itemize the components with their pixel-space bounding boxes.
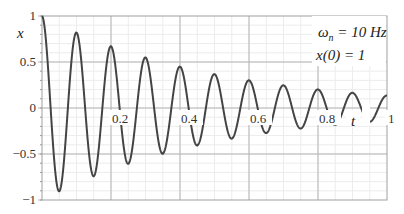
svg-text:0.8: 0.8 bbox=[319, 111, 335, 126]
svg-text:1: 1 bbox=[30, 8, 37, 23]
damped-oscillation-chart: 10.50−0.5−1 0.20.40.60.81 x t ωn = 10 Hz… bbox=[0, 0, 404, 214]
omega-value: = 10 Hz bbox=[334, 24, 387, 40]
svg-text:0.2: 0.2 bbox=[112, 111, 128, 126]
svg-text:0.4: 0.4 bbox=[181, 111, 198, 126]
svg-text:1: 1 bbox=[388, 111, 395, 126]
initial-condition: x(0) = 1 bbox=[315, 47, 365, 64]
svg-text:0.5: 0.5 bbox=[20, 54, 36, 69]
omega-symbol: ω bbox=[318, 24, 329, 40]
svg-text:0.6: 0.6 bbox=[250, 111, 267, 126]
svg-text:0: 0 bbox=[30, 100, 37, 115]
y-axis-label: x bbox=[16, 25, 24, 41]
y-tick-labels: 10.50−0.5−1 bbox=[12, 8, 36, 207]
svg-text:−0.5: −0.5 bbox=[12, 146, 36, 161]
annotation: ωn = 10 Hz x(0) = 1 bbox=[312, 16, 387, 66]
svg-text:−1: −1 bbox=[22, 192, 36, 207]
